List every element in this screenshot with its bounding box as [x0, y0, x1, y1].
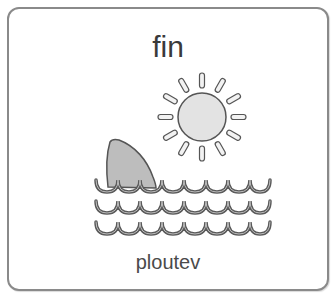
shark-fin-icon — [107, 139, 156, 188]
sun-icon — [158, 73, 246, 161]
card-caption: ploutev — [0, 250, 336, 274]
